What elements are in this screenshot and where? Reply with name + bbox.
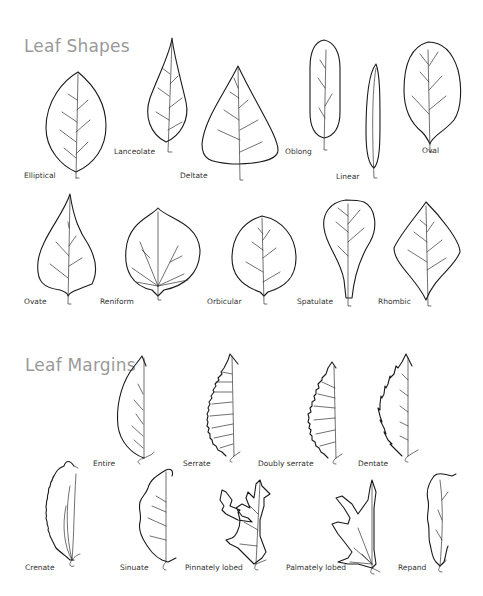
leaf-shapes-title: Leaf Shapes [24, 36, 130, 56]
label-serrate: Serrate [183, 459, 211, 468]
label-entire: Entire [93, 459, 115, 468]
serrate-margin-leaf-icon [204, 352, 246, 466]
pinnately-lobed-leaf-icon [218, 474, 274, 574]
entire-margin-leaf-icon [114, 354, 158, 466]
oval-leaf-icon [402, 40, 462, 154]
label-spatulate: Spatulate [297, 297, 333, 306]
doubly-serrate-margin-leaf-icon [306, 360, 346, 466]
repand-margin-leaf-icon [422, 470, 458, 574]
oblong-leaf-icon [308, 38, 342, 154]
label-palmately-lobed: Palmately lobed [286, 563, 346, 572]
label-oval: Oval [422, 146, 439, 155]
orbicular-leaf-icon [230, 214, 300, 306]
label-linear: Linear [336, 172, 359, 181]
label-orbicular: Orbicular [207, 297, 241, 306]
label-ovate: Ovate [24, 297, 47, 306]
label-doubly-serrate: Doubly serrate [258, 459, 314, 468]
label-rhombic: Rhombic [378, 297, 411, 306]
label-crenate: Crenate [25, 563, 55, 572]
label-elliptical: Elliptical [24, 171, 56, 180]
dentate-margin-leaf-icon [376, 352, 420, 466]
label-pinnately-lobed: Pinnately lobed [185, 563, 243, 572]
label-sinuate: Sinuate [120, 563, 149, 572]
elliptical-leaf-icon [44, 70, 108, 180]
linear-leaf-icon [364, 62, 382, 180]
label-dentate: Dentate [358, 459, 388, 468]
lanceolate-leaf-icon [144, 36, 190, 156]
label-repand: Repand [398, 563, 426, 572]
sinuate-margin-leaf-icon [136, 466, 178, 574]
label-lanceolate: Lanceolate [114, 147, 155, 156]
crenate-margin-leaf-icon [44, 456, 84, 572]
label-oblong: Oblong [285, 147, 312, 156]
label-deltate: Deltate [180, 171, 208, 180]
rhombic-leaf-icon [392, 200, 464, 308]
ovate-leaf-icon [36, 192, 98, 306]
spatulate-leaf-icon [320, 198, 378, 308]
label-reniform: Reniform [100, 297, 134, 306]
deltate-leaf-icon [200, 64, 280, 182]
reniform-leaf-icon [122, 206, 202, 302]
